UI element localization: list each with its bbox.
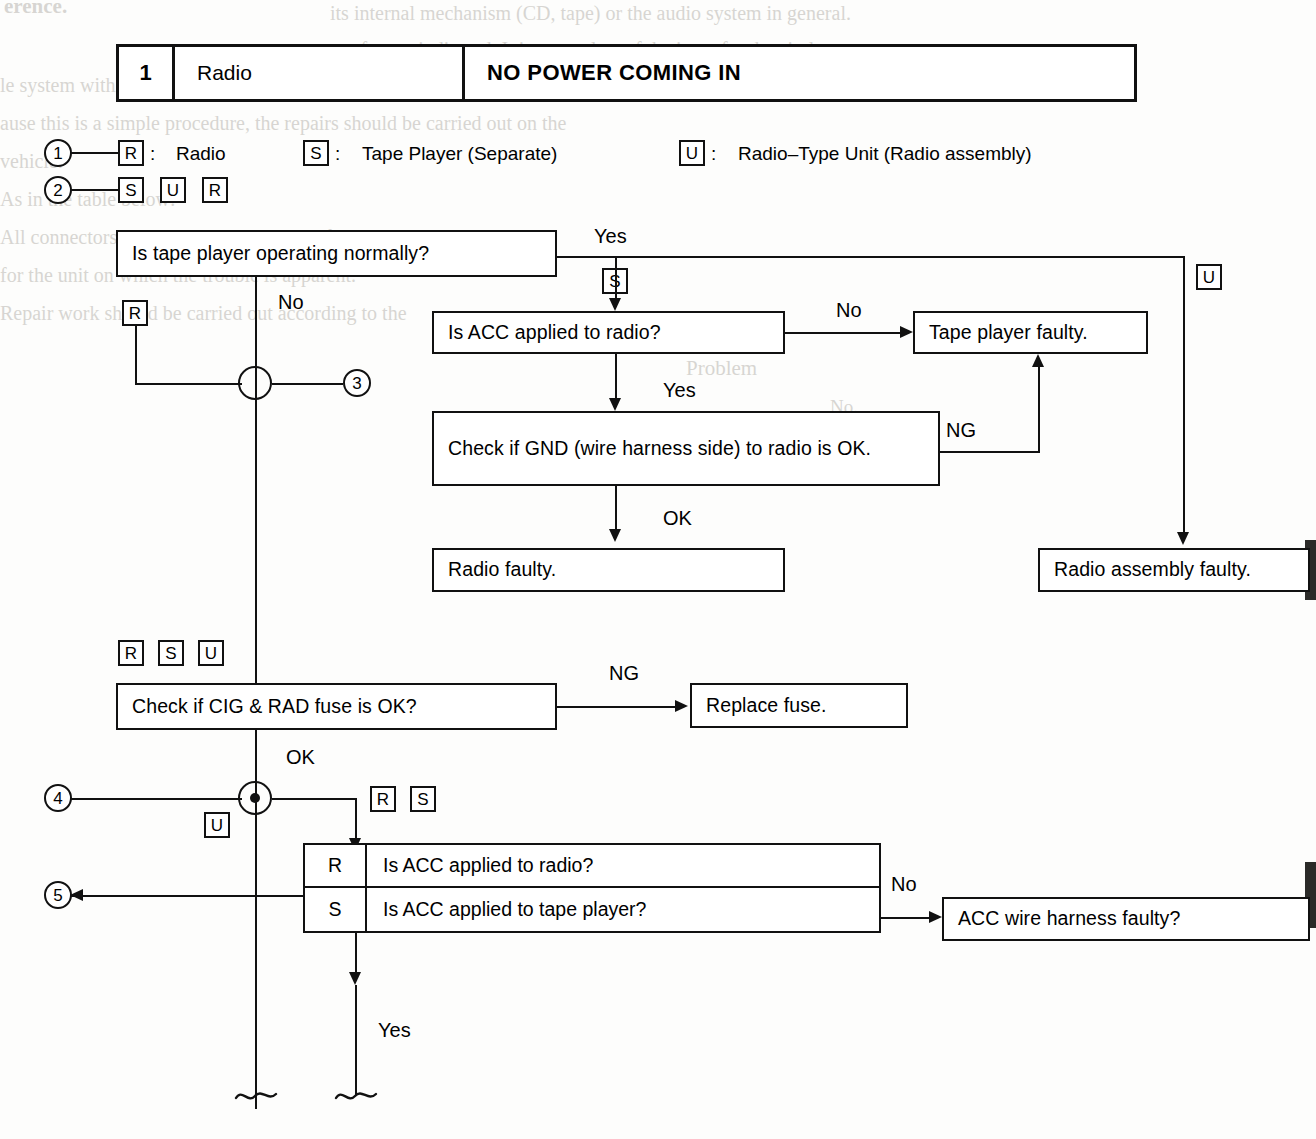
line-decision-yes-tail	[355, 985, 357, 1095]
box-acc-harness-faulty: ACC wire harness faulty?	[942, 897, 1310, 941]
legend-sep-s: :	[335, 144, 340, 163]
box-acc-harness-faulty-text: ACC wire harness faulty?	[944, 906, 1190, 932]
label-yes-bottom: Yes	[378, 1020, 411, 1040]
ref-4: 4	[44, 784, 72, 812]
box-radio-faulty-text: Radio faulty.	[434, 557, 566, 583]
box-check-gnd-text: Check if GND (wire harness side) to radi…	[434, 434, 881, 462]
line-acc-radio-to-tape-faulty	[785, 332, 900, 334]
legend-text-unit: Radio–Type Unit (Radio assembly)	[738, 144, 1032, 163]
box-check-fuse: Check if CIG & RAD fuse is OK?	[116, 683, 557, 730]
legend-sep-r: :	[150, 144, 155, 163]
decision-table: R Is ACC applied to radio? S Is ACC appl…	[303, 843, 881, 933]
legend-text-tape: Tape Player (Separate)	[362, 144, 557, 163]
legend-order-chip-s: S	[118, 177, 144, 203]
legend-ref-1-leader	[70, 152, 118, 154]
chip-u-right: U	[1196, 264, 1222, 290]
ghost-text-5: ause this is a simple procedure, the rep…	[0, 112, 567, 135]
line-to-ref-3	[272, 383, 343, 385]
legend-chip-s: S	[303, 140, 329, 166]
arrow-to-tape-faulty	[900, 326, 913, 338]
junction-dot-4	[250, 793, 260, 803]
arrow-decision-yes-down	[349, 972, 361, 985]
line-branch-4-right	[272, 798, 355, 800]
box-acc-radio-upper-text: Is ACC applied to radio?	[434, 320, 671, 346]
ref-5: 5	[44, 881, 72, 909]
line-yes-top	[557, 256, 1185, 258]
line-ref-4-leader	[70, 798, 242, 800]
box-replace-fuse: Replace fuse.	[690, 683, 908, 728]
box-acc-radio-upper: Is ACC applied to radio?	[432, 311, 785, 354]
box-replace-fuse-text: Replace fuse.	[692, 693, 837, 719]
box-radio-faulty: Radio faulty.	[432, 548, 785, 592]
symptom-header-table: 1 Radio NO POWER COMING IN	[116, 44, 1137, 102]
arrow-to-replace-fuse	[675, 700, 688, 712]
legend-sep-u: :	[711, 144, 716, 163]
chip-rs-s: S	[410, 786, 436, 812]
legend-order-chip-r: R	[202, 177, 228, 203]
decision-table-question-s: Is ACC applied to tape player?	[367, 898, 879, 921]
line-decision-yes-down	[355, 933, 357, 976]
break-symbol-left-icon	[232, 1080, 280, 1108]
decision-table-key-s: S	[305, 888, 367, 931]
box-tape-player-faulty: Tape player faulty.	[913, 311, 1148, 354]
line-gnd-to-radio-faulty	[615, 486, 617, 532]
label-no-acc-radio: No	[836, 300, 862, 320]
label-no-top: No	[278, 292, 304, 312]
line-acc-radio-to-gnd	[615, 354, 617, 401]
decision-table-row-r: R Is ACC applied to radio?	[305, 845, 879, 888]
arrow-s-branch-down	[609, 298, 621, 311]
line-ref-5-leader	[70, 895, 305, 897]
label-ok-fuse: OK	[286, 747, 315, 767]
chip-u-lower: U	[204, 812, 230, 838]
ref-3: 3	[343, 369, 371, 397]
line-r-left-right	[135, 383, 242, 385]
chip-rs-r: R	[370, 786, 396, 812]
legend-ref-2: 2	[44, 176, 72, 204]
box-check-gnd: Check if GND (wire harness side) to radi…	[432, 411, 940, 486]
label-ok-gnd: OK	[663, 508, 692, 528]
box-radio-assembly-faulty-text: Radio assembly faulty.	[1040, 557, 1261, 583]
box-tape-player-normal-text: Is tape player operating normally?	[118, 241, 439, 267]
junction-crossing-3	[238, 366, 272, 400]
legend-text-radio: Radio	[176, 144, 226, 163]
flowchart-page: erence. its internal mechanism (CD, tape…	[0, 0, 1316, 1139]
header-number-cell: 1	[119, 47, 175, 99]
legend-order-chip-u: U	[160, 177, 186, 203]
line-gnd-ng-up	[1038, 367, 1040, 453]
arrow-u-branch-down	[1177, 532, 1189, 545]
label-no-decision-table: No	[891, 874, 917, 894]
break-symbol-right-icon	[332, 1080, 380, 1108]
chip-rsu-u: U	[198, 640, 224, 666]
header-symptom-cell: NO POWER COMING IN	[465, 47, 1134, 99]
box-tape-player-normal: Is tape player operating normally?	[116, 230, 557, 277]
arrow-ng-up-to-tape-faulty	[1032, 354, 1044, 367]
legend-chip-u: U	[679, 140, 705, 166]
line-decision-to-acc-harness	[881, 917, 929, 919]
line-u-branch-drop	[1183, 256, 1185, 535]
ghost-text-7: As in the table below:	[0, 188, 176, 211]
box-tape-player-faulty-text: Tape player faulty.	[915, 320, 1098, 346]
decision-table-row-s: S Is ACC applied to tape player?	[305, 888, 879, 931]
ghost-text-10: Repair work should be carried out accord…	[0, 302, 407, 325]
line-fuse-ng-right	[557, 706, 675, 708]
label-ng-fuse: NG	[609, 663, 639, 683]
arrow-to-radio-faulty	[609, 529, 621, 542]
line-r-left-down	[135, 326, 137, 383]
box-check-fuse-text: Check if CIG & RAD fuse is OK?	[118, 694, 427, 720]
label-yes-top: Yes	[594, 226, 627, 246]
arrow-to-acc-harness	[929, 911, 942, 923]
box-radio-assembly-faulty: Radio assembly faulty.	[1038, 548, 1310, 592]
legend-ref-1: 1	[44, 139, 72, 167]
line-main-trunk-upper	[255, 277, 257, 683]
header-system-cell: Radio	[175, 47, 465, 99]
ghost-text-2: its internal mechanism (CD, tape) or the…	[330, 2, 851, 25]
label-yes-acc-radio: Yes	[663, 380, 696, 400]
ghost-text-11: Problem	[686, 356, 757, 381]
arrow-ref-5-left	[70, 889, 83, 901]
line-s-branch-drop	[615, 256, 617, 302]
line-gnd-ng-right	[940, 451, 1040, 453]
chip-rsu-r: R	[118, 640, 144, 666]
legend-ref-2-leader	[70, 189, 118, 191]
label-ng-gnd: NG	[946, 420, 976, 440]
decision-table-key-r: R	[305, 845, 367, 886]
